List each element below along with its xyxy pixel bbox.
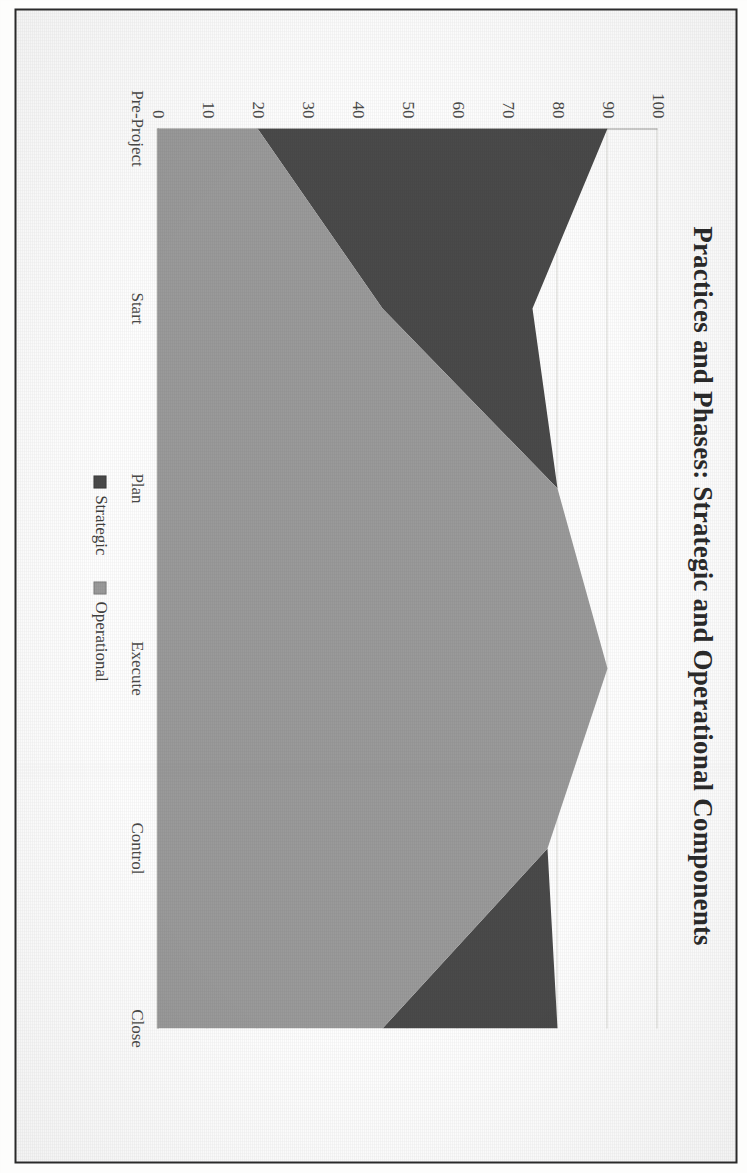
y-tick-label: 0 <box>147 110 167 119</box>
x-tick-label: Execute <box>126 641 146 696</box>
rotated-figure-canvas: Practices and Phases: Strategic and Oper… <box>0 0 747 1173</box>
y-tick-label: 50 <box>397 101 417 118</box>
y-tick-label: 40 <box>347 101 367 118</box>
y-tick-label: 60 <box>447 101 467 118</box>
chart-legend: StrategicOperational <box>90 128 110 1028</box>
y-tick-label: 80 <box>547 101 567 118</box>
y-tick-label: 90 <box>597 101 617 118</box>
x-tick-label: Control <box>126 822 146 874</box>
x-tick-label: Close <box>126 1009 146 1048</box>
figure-page: Practices and Phases: Strategic and Oper… <box>0 0 747 1173</box>
x-tick-label: Start <box>126 292 146 324</box>
figure-frame-border: Practices and Phases: Strategic and Oper… <box>14 8 737 1163</box>
legend-item[interactable]: Operational <box>90 581 110 681</box>
legend-item[interactable]: Strategic <box>90 475 110 555</box>
y-tick-label: 70 <box>497 101 517 118</box>
y-tick-label: 30 <box>297 101 317 118</box>
x-tick-label: Pre-Project <box>126 90 146 166</box>
y-tick-label: 10 <box>197 101 217 118</box>
y-tick-label: 100 <box>647 93 667 119</box>
chart-title: Practices and Phases: Strategic and Oper… <box>686 10 717 1161</box>
stacked-area-series <box>157 128 657 1028</box>
square-swatch-icon <box>94 475 107 488</box>
y-tick-label: 20 <box>247 101 267 118</box>
legend-label: Operational <box>90 601 110 681</box>
x-tick-label: Plan <box>126 473 146 503</box>
legend-label: Strategic <box>90 495 110 555</box>
square-swatch-icon <box>94 581 107 594</box>
plot-area: 1009080706050403020100 Pre-ProjectStartP… <box>157 128 657 1028</box>
